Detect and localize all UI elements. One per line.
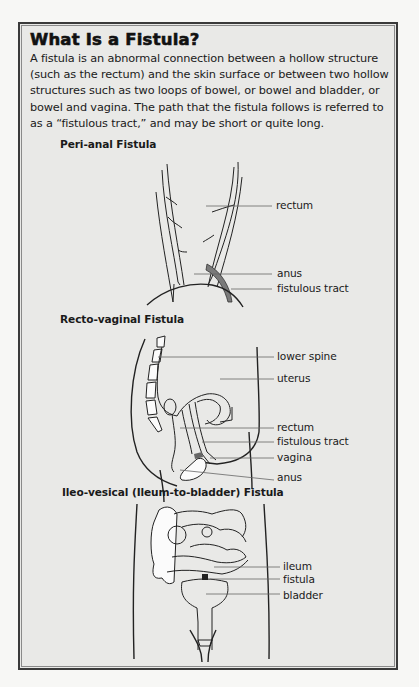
label-ileum: ileum <box>283 560 312 572</box>
label-bladder: bladder <box>283 589 323 601</box>
label-fistula: fistula <box>283 573 315 585</box>
ileo-vesical-diagram <box>20 24 400 672</box>
fistula-info-box: What Is a Fistula? A fistula is an abnor… <box>18 22 398 670</box>
